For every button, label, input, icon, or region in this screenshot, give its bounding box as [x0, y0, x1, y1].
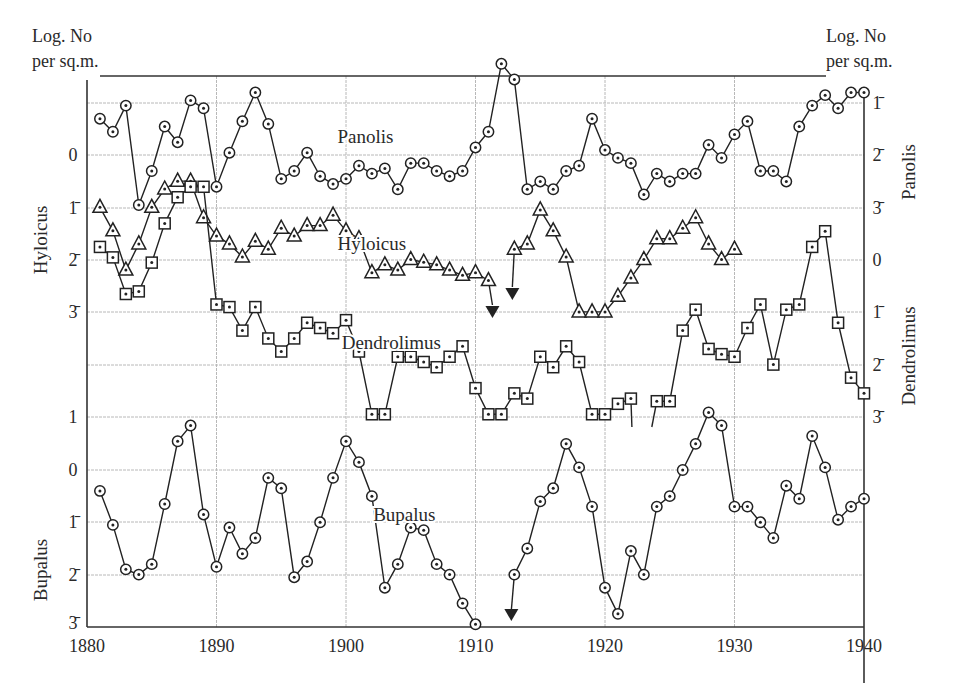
dendrolimus-axis-title: Dendrolimus: [898, 306, 919, 405]
y-tick-label: 2̄: [873, 145, 885, 165]
gridlines: [87, 76, 864, 627]
panolis-axis-title: Panolis: [898, 144, 919, 200]
series-label-hyloicus: Hyloicus: [338, 233, 407, 254]
series-panolis: [95, 59, 869, 211]
axes: [87, 76, 864, 683]
series-label-panolis: Panolis: [337, 126, 393, 147]
series-line: [657, 231, 864, 401]
x-tick-label: 1920: [587, 636, 623, 656]
y-tick-label: 1̄: [873, 93, 885, 113]
arrow-down-icon: [504, 609, 518, 621]
y-tick-label: 0: [69, 145, 78, 165]
x-tick-label: 1940: [846, 636, 882, 656]
right-header-line2: per sq.m.: [826, 51, 893, 71]
right-header-line1: Log. No: [826, 26, 886, 46]
y-tick-label: 1̄: [873, 302, 885, 322]
series-label-bupalus: Bupalus: [373, 504, 435, 525]
y-tick-label: 0: [873, 250, 882, 270]
left-header-line2: per sq.m.: [32, 51, 99, 71]
y-tick-label: 2̄: [873, 355, 885, 375]
series-bupalus: [95, 407, 869, 629]
series-dendrolimus: [94, 181, 869, 427]
x-tick-label: 1890: [199, 636, 235, 656]
series-labels: PanolisHyloicusDendrolimusBupalus: [337, 126, 440, 525]
y-tick-label: 2̄: [69, 565, 81, 585]
y-tick-label: 1: [69, 407, 78, 427]
data-series: [93, 59, 870, 630]
y-tick-label: 0: [69, 460, 78, 480]
y-tick-label: 1̄: [69, 512, 81, 532]
y-tick-label: 3̄: [873, 407, 885, 427]
x-tick-label: 1880: [69, 636, 105, 656]
hyloicus-axis-title: Hyloicus: [30, 206, 51, 275]
bupalus-axis-title: Bupalus: [30, 539, 51, 601]
y-tick-label: 3̄: [873, 198, 885, 218]
arrow-down-icon: [505, 288, 519, 300]
x-tick-label: 1930: [717, 636, 753, 656]
series-label-dendrolimus: Dendrolimus: [342, 332, 441, 353]
y-tick-label: 2̄: [69, 250, 81, 270]
x-tick-labels: 1880189019001910192019301940: [69, 636, 882, 656]
series-line: [514, 210, 734, 312]
x-tick-label: 1900: [328, 636, 364, 656]
y-tick-label: 3̄: [69, 302, 81, 322]
x-tick-label: 1910: [458, 636, 494, 656]
y-tick-label: 3̄: [69, 613, 81, 633]
series-line: [100, 187, 631, 415]
y-tick-label: 1̄: [69, 198, 81, 218]
left-header-line1: Log. No: [32, 26, 92, 46]
population-chart: Log. No per sq.m. Log. No per sq.m. Hylo…: [0, 0, 953, 683]
